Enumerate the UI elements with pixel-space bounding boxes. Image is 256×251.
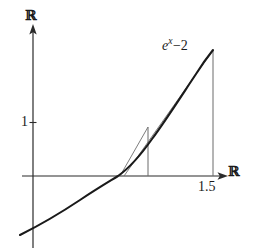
function-label-constant: 2 [181,38,188,53]
y-axis-tick-label-1: 1 [21,115,28,129]
x-axis-tick-label-1-5: 1.5 [198,180,216,194]
function-label: ex−2 [162,37,188,53]
function-curve [20,50,213,235]
plot-canvas [0,0,256,251]
y-axis-label: ℝ [25,8,37,22]
function-label-minus: − [172,38,180,53]
x-axis-label: ℝ [228,164,240,178]
figure-container: ℝ ℝ 1 1.5 ex−2 [0,0,256,251]
